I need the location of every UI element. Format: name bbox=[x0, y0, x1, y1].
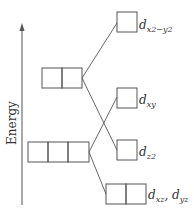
svg-text:dxy: dxy bbox=[139, 93, 156, 109]
level-dz2: dz2 bbox=[117, 140, 156, 161]
axis-label: Energy bbox=[5, 101, 19, 145]
svg-text:dxz, dyz: dxz, dyz bbox=[148, 188, 189, 204]
svg-text:dx2−y2: dx2−y2 bbox=[139, 18, 173, 34]
level-dx2-y2: dx2−y2 bbox=[117, 12, 173, 34]
level-dxy: dxy bbox=[117, 88, 156, 109]
level-lower-triple bbox=[28, 142, 89, 162]
connection-lines bbox=[82, 23, 117, 194]
arrow-up-icon bbox=[20, 23, 25, 31]
svg-text:dz2: dz2 bbox=[139, 145, 156, 161]
level-upper-pair bbox=[42, 68, 82, 88]
energy-axis: Energy bbox=[5, 23, 25, 205]
level-dxz-dyz: dxz, dyz bbox=[106, 184, 189, 204]
energy-level-diagram: Energy dx2−y2 dxy dz2 dxz, dyz bbox=[0, 0, 194, 215]
